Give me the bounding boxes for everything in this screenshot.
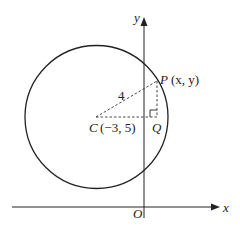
x-axis-arrow-icon bbox=[211, 204, 220, 211]
point-p-label: P bbox=[159, 72, 168, 87]
point-q-label: Q bbox=[152, 120, 162, 135]
circle-diagram: y x O P (x, y) 4 C (−3, 5) Q bbox=[0, 0, 240, 228]
y-axis-arrow-icon bbox=[141, 17, 148, 26]
radius-label: 4 bbox=[118, 88, 125, 103]
x-axis-label: x bbox=[222, 200, 229, 215]
right-angle-mark bbox=[150, 110, 157, 117]
p-coords-text: (x, y) bbox=[171, 72, 199, 87]
diagram-canvas: y x O P (x, y) 4 C (−3, 5) Q bbox=[0, 0, 240, 228]
radius-cp bbox=[96, 81, 157, 117]
point-p-coords: (x, y) bbox=[171, 72, 199, 87]
center-coords: (−3, 5) bbox=[100, 120, 136, 135]
y-axis-label: y bbox=[132, 10, 140, 25]
origin-label: O bbox=[133, 206, 143, 221]
center-label: C bbox=[89, 120, 98, 135]
